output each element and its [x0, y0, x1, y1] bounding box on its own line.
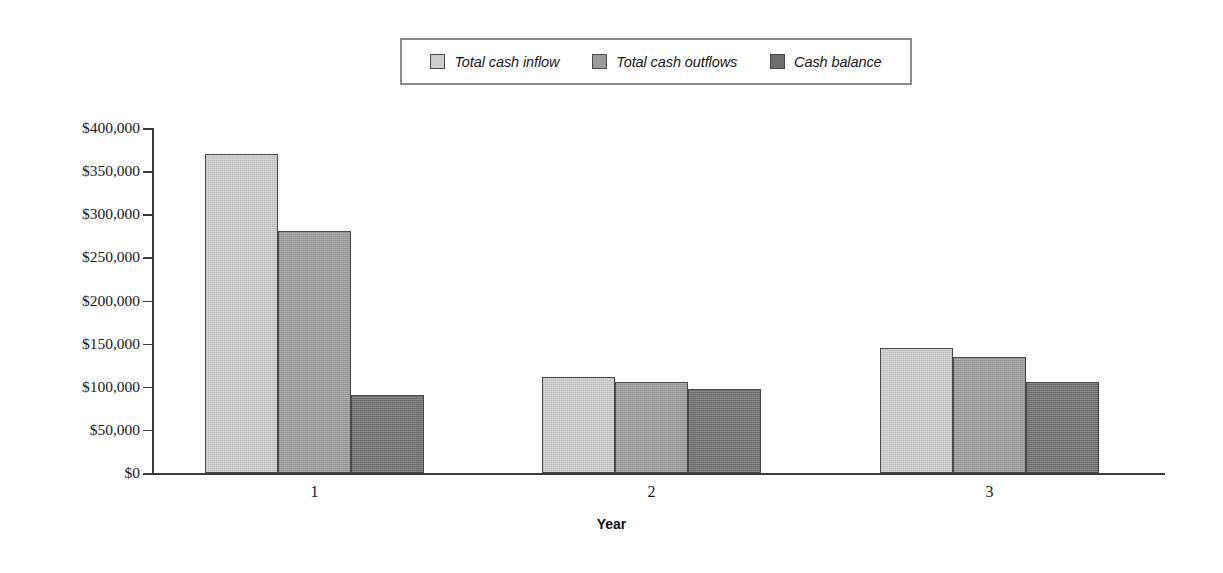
y-axis-tick-label: $100,000 — [44, 378, 140, 396]
y-axis-tick — [143, 430, 152, 432]
bar-texture — [954, 358, 1025, 472]
y-axis-tick — [143, 344, 152, 346]
y-axis-tick-label: $400,000 — [44, 119, 140, 137]
x-axis-line — [152, 473, 1165, 475]
bar-total-cash-outflows-year-3 — [953, 357, 1026, 473]
y-axis-tick — [143, 257, 152, 259]
bar-total-cash-inflow-year-3 — [880, 348, 953, 473]
legend-item-total-cash-outflows: Total cash outflows — [592, 54, 737, 70]
y-axis-tick — [143, 387, 152, 389]
bar-total-cash-inflow-year-1 — [205, 154, 278, 473]
x-axis-category-1: 1 — [311, 483, 319, 501]
y-axis-tick — [143, 128, 152, 130]
legend-swatch-icon-total-cash-inflow — [430, 54, 445, 69]
plot-area — [152, 128, 1165, 473]
bar-chart: Total cash inflow Total cash outflows Ca… — [0, 0, 1223, 573]
bar-texture — [543, 378, 614, 472]
y-axis-tick-label: $150,000 — [44, 335, 140, 353]
bar-texture — [352, 396, 423, 472]
y-axis-tick-label: $300,000 — [44, 205, 140, 223]
y-axis-tick-label: $200,000 — [44, 292, 140, 310]
legend-item-cash-balance: Cash balance — [770, 54, 881, 70]
x-axis-title: Year — [0, 516, 1223, 532]
legend-swatch-icon-cash-balance — [770, 54, 785, 69]
bar-cash-balance-year-3 — [1026, 382, 1099, 473]
chart-legend: Total cash inflow Total cash outflows Ca… — [400, 38, 912, 85]
bar-texture — [881, 349, 952, 472]
bar-cash-balance-year-2 — [688, 389, 761, 473]
x-axis-category-3: 3 — [986, 483, 994, 501]
bar-texture — [689, 390, 760, 472]
x-axis-category-2: 2 — [648, 483, 656, 501]
bar-total-cash-outflows-year-2 — [615, 382, 688, 473]
y-axis-tick-label: $0 — [44, 464, 140, 482]
y-axis-tick — [143, 171, 152, 173]
bar-texture — [206, 155, 277, 472]
y-axis-tick — [143, 301, 152, 303]
bar-texture — [1027, 383, 1098, 472]
y-axis-tick — [143, 214, 152, 216]
bar-total-cash-outflows-year-1 — [278, 231, 351, 473]
legend-label-total-cash-inflow: Total cash inflow — [454, 54, 559, 70]
legend-label-total-cash-outflows: Total cash outflows — [616, 54, 737, 70]
bar-texture — [616, 383, 687, 472]
y-axis-line — [152, 128, 154, 473]
bar-texture — [279, 232, 350, 472]
y-axis-tick-label: $50,000 — [44, 421, 140, 439]
bar-cash-balance-year-1 — [351, 395, 424, 473]
y-axis-tick-label: $350,000 — [44, 162, 140, 180]
legend-item-total-cash-inflow: Total cash inflow — [430, 54, 559, 70]
bar-total-cash-inflow-year-2 — [542, 377, 615, 473]
legend-swatch-icon-total-cash-outflows — [592, 54, 607, 69]
y-axis-tick — [143, 473, 152, 475]
y-axis-tick-label: $250,000 — [44, 248, 140, 266]
legend-label-cash-balance: Cash balance — [794, 54, 881, 70]
